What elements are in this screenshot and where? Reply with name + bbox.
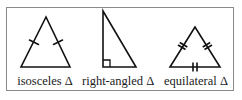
right-angled-label: right-angled Δ [82,74,154,88]
right-angle-marker [103,60,110,67]
isosceles-triangle [21,17,70,67]
right-angled-triangle [103,11,136,67]
equilateral-label: equilateral Δ [162,74,230,88]
isosceles-label: isosceles Δ [14,74,76,88]
equilateral-triangle [170,27,220,72]
